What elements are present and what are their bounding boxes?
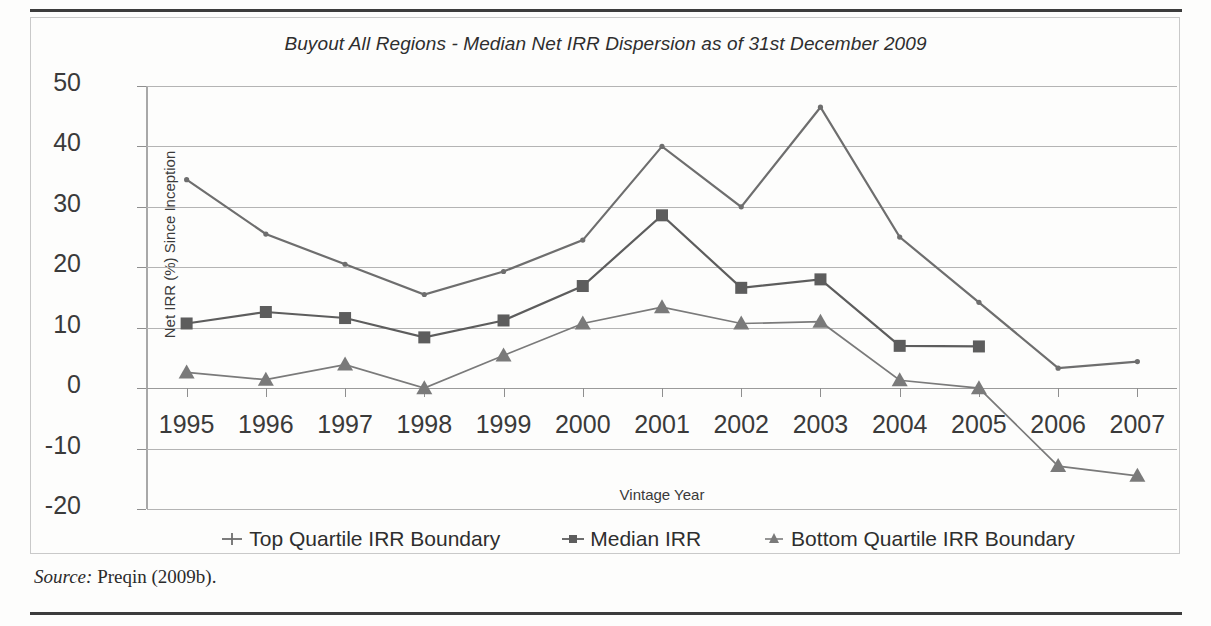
series-plus xyxy=(184,105,1140,371)
data-point-square xyxy=(339,312,351,324)
gridline--20 xyxy=(147,509,1177,510)
data-point-triangle xyxy=(496,348,512,362)
data-point-plus xyxy=(422,292,427,297)
data-point-square xyxy=(814,273,826,285)
triangle-marker-icon xyxy=(761,529,787,549)
data-point-plus xyxy=(818,105,823,110)
data-point-plus xyxy=(580,237,585,242)
figure-page: Buyout All Regions - Median Net IRR Disp… xyxy=(0,0,1211,626)
data-point-plus xyxy=(263,231,268,236)
legend-item-bottom-quartile[interactable]: Bottom Quartile IRR Boundary xyxy=(761,527,1075,551)
data-point-square xyxy=(894,340,906,352)
legend-label-bottom-quartile: Bottom Quartile IRR Boundary xyxy=(791,527,1075,551)
y-tick-label-40: 40 xyxy=(1,130,81,155)
plus-marker-icon xyxy=(219,529,245,549)
legend-label-top-quartile: Top Quartile IRR Boundary xyxy=(249,527,500,551)
source-text: Preqin (2009b). xyxy=(97,566,216,587)
y-tick-40 xyxy=(137,146,146,147)
data-point-square xyxy=(418,331,430,343)
y-tick--20 xyxy=(137,509,146,510)
y-tick-30 xyxy=(137,207,146,208)
data-point-triangle xyxy=(179,364,195,378)
data-point-plus xyxy=(1056,366,1061,371)
data-point-plus xyxy=(184,177,189,182)
source-note: Source: Preqin (2009b). xyxy=(34,566,216,588)
data-point-square xyxy=(577,280,589,292)
legend-label-median: Median IRR xyxy=(590,527,701,551)
source-label: Source: xyxy=(34,566,92,587)
y-tick-50 xyxy=(137,86,146,87)
data-point-triangle xyxy=(337,357,353,371)
data-point-plus xyxy=(739,204,744,209)
data-point-square xyxy=(498,314,510,326)
data-point-square xyxy=(735,282,747,294)
y-tick-label-50: 50 xyxy=(1,70,81,95)
y-tick-20 xyxy=(137,267,146,268)
data-point-triangle xyxy=(654,299,670,313)
data-point-plus xyxy=(976,300,981,305)
series-line xyxy=(187,307,1138,476)
square-marker-icon xyxy=(560,529,586,549)
data-point-square xyxy=(260,306,272,318)
y-tick-label-30: 30 xyxy=(1,191,81,216)
chart-legend: Top Quartile IRR Boundary Median IRR Bot… xyxy=(147,527,1147,551)
legend-item-median[interactable]: Median IRR xyxy=(560,527,701,551)
data-point-plus xyxy=(501,269,506,274)
data-point-square xyxy=(973,340,985,352)
data-point-square xyxy=(181,317,193,329)
y-tick--10 xyxy=(137,449,146,450)
data-point-plus xyxy=(897,234,902,239)
data-point-triangle xyxy=(812,314,828,328)
y-tick-label-10: 10 xyxy=(1,312,81,337)
y-tick-label--10: -10 xyxy=(1,433,81,458)
y-tick-label-20: 20 xyxy=(1,251,81,276)
page-bottom-rule xyxy=(30,612,1182,615)
data-point-triangle xyxy=(892,372,908,386)
y-tick-label-0: 0 xyxy=(1,372,81,397)
y-tick-0 xyxy=(137,388,146,389)
legend-item-top-quartile[interactable]: Top Quartile IRR Boundary xyxy=(219,527,500,551)
series-triangle xyxy=(179,299,1146,482)
series-square xyxy=(181,209,985,352)
y-tick-10 xyxy=(137,328,146,329)
y-tick-label--20: -20 xyxy=(1,493,81,518)
data-point-plus xyxy=(1135,359,1140,364)
data-point-plus xyxy=(659,144,664,149)
plot-area: Net IRR (%) Since Inception Vintage Year… xyxy=(147,86,1177,509)
series-layer xyxy=(147,86,1177,509)
page-top-rule xyxy=(30,9,1182,12)
data-point-square xyxy=(656,209,668,221)
data-point-plus xyxy=(342,262,347,267)
chart-title: Buyout All Regions - Median Net IRR Disp… xyxy=(0,33,1211,55)
